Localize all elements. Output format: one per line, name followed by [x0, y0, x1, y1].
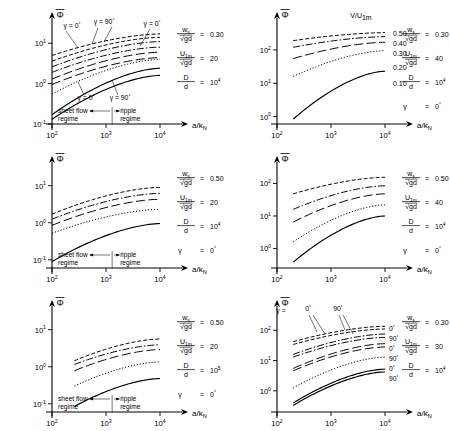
- svg-text:101: 101: [260, 355, 271, 365]
- curve-0.40: [74, 345, 160, 365]
- curve-0.40: [52, 193, 160, 219]
- svg-text:0.50: 0.50: [210, 175, 224, 182]
- svg-text:=: =: [200, 319, 204, 326]
- gamma-right-labels: 0°90°0°90°0°90°: [389, 325, 399, 382]
- svg-text:=: =: [425, 199, 429, 206]
- svg-text:=: =: [200, 199, 204, 206]
- legend-label-0.30: 0.30: [393, 50, 407, 57]
- svg-text:100: 100: [35, 78, 46, 88]
- svg-text:104: 104: [154, 130, 165, 140]
- svg-text:10-1: 10-1: [33, 119, 46, 129]
- legend-label-0.40: 0.40: [393, 40, 407, 47]
- svg-text:√gd: √gd: [405, 59, 417, 67]
- svg-text:a/kN: a/kN: [192, 121, 207, 131]
- svg-text:V/U1m: V/U1m: [350, 12, 372, 21]
- svg-text:0°: 0°: [305, 305, 311, 312]
- svg-text:100: 100: [35, 218, 46, 228]
- svg-text:103: 103: [100, 130, 111, 140]
- y-axis-ticks: 102101100: [260, 325, 277, 396]
- svg-text:103: 103: [100, 274, 111, 284]
- svg-text:40: 40: [435, 199, 443, 206]
- svg-text:γ: γ: [403, 247, 407, 255]
- parameter-list: ws√gd=0.50U1m√gd=40Dd=104γ=0°: [402, 170, 449, 255]
- svg-text:Φ: Φ: [56, 298, 63, 308]
- svg-text:104: 104: [435, 365, 446, 374]
- gamma-top-annotations: γ =0°90°: [276, 305, 353, 334]
- svg-text:d: d: [409, 227, 413, 234]
- svg-text:103: 103: [100, 418, 111, 428]
- svg-text:102: 102: [46, 274, 57, 284]
- curve-0.50-90: [293, 329, 385, 344]
- svg-text:=: =: [425, 55, 429, 62]
- svg-text:a/kN: a/kN: [192, 265, 207, 275]
- svg-text:20: 20: [210, 343, 218, 350]
- legend-label-0.20: 0.20: [393, 64, 407, 71]
- svg-text:102: 102: [271, 274, 282, 284]
- svg-text:D: D: [183, 218, 188, 225]
- svg-text:=: =: [425, 175, 429, 182]
- svg-text:sheet flow: sheet flow: [58, 395, 88, 402]
- svg-text:0°: 0°: [435, 245, 441, 254]
- parameter-list: ws√gd=0.30U1m√gd=30Dd=104: [402, 314, 449, 378]
- svg-text:104: 104: [154, 418, 165, 428]
- curve-0.40: [293, 186, 385, 210]
- svg-text:40: 40: [435, 55, 443, 62]
- svg-text:101: 101: [260, 211, 271, 221]
- legend-label-0.10: 0.10: [393, 80, 407, 87]
- svg-text:sheet flow: sheet flow: [58, 251, 88, 258]
- svg-text:0.50: 0.50: [210, 319, 224, 326]
- svg-text:104: 104: [435, 221, 446, 230]
- svg-text:102: 102: [46, 130, 57, 140]
- svg-text:0.30: 0.30: [210, 31, 224, 38]
- curve-0.40b: [52, 47, 160, 72]
- curve-0.40-0: [293, 334, 385, 354]
- svg-text:regime: regime: [58, 403, 78, 411]
- curve-0.50: [293, 177, 385, 194]
- svg-text:10-1: 10-1: [33, 255, 46, 265]
- svg-text:√gd: √gd: [405, 203, 417, 211]
- svg-text:104: 104: [435, 77, 446, 86]
- svg-text:100: 100: [260, 243, 271, 253]
- svg-text:=: =: [425, 223, 429, 230]
- svg-text:regime: regime: [58, 115, 78, 123]
- svg-text:=: =: [200, 223, 204, 230]
- svg-text:104: 104: [210, 77, 221, 86]
- svg-text:γ = 0°: γ = 0°: [78, 94, 95, 102]
- x-axis-ticks: 102103104: [46, 412, 165, 428]
- chart-panel-5: 10210310410110010-1a/kNΦsheet flowregime…: [0, 288, 225, 431]
- svg-text:D: D: [183, 362, 188, 369]
- svg-text:10-1: 10-1: [33, 399, 46, 409]
- chart-panel-6: 102103104102101100a/kNΦws√gd=0.30U1m√gd=…: [225, 288, 450, 431]
- curve-0.10-90: [293, 372, 385, 405]
- curve-0.20: [293, 205, 385, 242]
- svg-text:√gd: √gd: [405, 179, 417, 187]
- svg-text:√gd: √gd: [180, 203, 192, 211]
- svg-text:D: D: [408, 74, 413, 81]
- svg-text:γ: γ: [403, 103, 407, 111]
- svg-text:101: 101: [35, 180, 46, 190]
- parameter-list: ws√gd=0.50U1m√gd=20Dd=104γ=0°: [177, 170, 224, 255]
- y-axis-ticks: 10110010-1: [33, 38, 52, 129]
- svg-text:=: =: [200, 31, 204, 38]
- svg-text:105: 105: [210, 365, 221, 374]
- svg-text:regime: regime: [120, 115, 140, 123]
- y-axis-ticks: 102101100: [260, 45, 277, 122]
- svg-text:102: 102: [260, 325, 271, 335]
- svg-text:=: =: [425, 247, 429, 254]
- svg-text:d: d: [409, 83, 413, 90]
- svg-text:=: =: [425, 31, 429, 38]
- svg-text:104: 104: [210, 221, 221, 230]
- svg-text:104: 104: [379, 418, 390, 428]
- curve-0.30: [52, 199, 160, 225]
- svg-text:Φ: Φ: [281, 10, 288, 20]
- svg-text:√gd: √gd: [405, 347, 417, 355]
- x-axis-ticks: 102103104: [46, 268, 165, 284]
- svg-text:101: 101: [35, 324, 46, 334]
- svg-text:20: 20: [210, 55, 218, 62]
- chart-panel-2: 102103104102101100a/kNΦws√gd=0.30U1m√gd=…: [225, 0, 450, 145]
- svg-text:=: =: [200, 367, 204, 374]
- svg-text:0.30: 0.30: [435, 31, 449, 38]
- svg-text:d: d: [184, 83, 188, 90]
- svg-text:103: 103: [325, 418, 336, 428]
- svg-text:γ =: γ =: [276, 307, 285, 315]
